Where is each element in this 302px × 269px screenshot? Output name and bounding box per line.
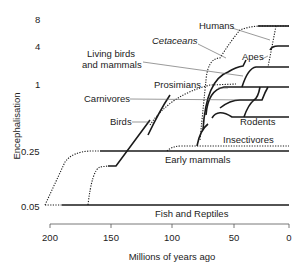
label-living-birds: Living birds	[87, 48, 135, 59]
label-and-mammals: and mammals	[82, 59, 142, 70]
label-fish-reptiles: Fish and Reptiles	[155, 208, 229, 219]
encephalisation-chart: 8 4 1 0.25 0.05 Encephalisation 200 150 …	[0, 0, 302, 269]
label-apes: Apes	[242, 51, 264, 62]
label-early-mammals: Early mammals	[165, 154, 231, 165]
x-tick-50: 50	[229, 232, 240, 243]
label-humans: Humans	[199, 20, 235, 31]
label-birds: Birds	[110, 116, 132, 127]
y-axis-title: Encephalisation	[11, 92, 22, 159]
label-carnivores: Carnivores	[84, 93, 130, 104]
x-axis-title: Millions of years ago	[129, 251, 216, 262]
y-tick-0.05: 0.05	[21, 201, 40, 212]
y-tick-0.25: 0.25	[21, 146, 40, 157]
label-prosimians: Prosimians	[154, 79, 201, 90]
leader-lines	[130, 28, 270, 122]
x-tick-200: 200	[42, 232, 58, 243]
label-insectivores: Insectivores	[223, 134, 274, 145]
y-tick-1: 1	[35, 79, 40, 90]
x-tick-100: 100	[164, 232, 180, 243]
y-tick-4: 4	[35, 41, 40, 52]
label-rodents: Rodents	[240, 116, 276, 127]
x-axis	[50, 224, 289, 228]
x-tick-0: 0	[286, 232, 291, 243]
x-tick-150: 150	[103, 232, 119, 243]
label-cetaceans: Cetaceans	[152, 35, 198, 46]
y-tick-8: 8	[35, 14, 40, 25]
